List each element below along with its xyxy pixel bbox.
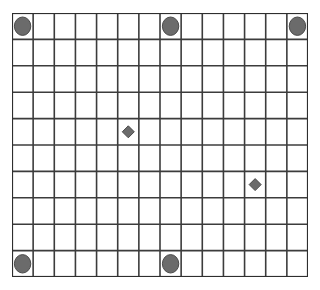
grid-cell bbox=[160, 39, 181, 65]
grid-cell bbox=[245, 198, 266, 224]
grid-cell bbox=[54, 224, 75, 250]
grid-surface bbox=[12, 13, 308, 277]
grid-cell bbox=[139, 198, 160, 224]
grid-cell bbox=[245, 92, 266, 118]
grid-cell bbox=[266, 145, 287, 171]
grid-cell bbox=[12, 39, 33, 65]
grid-cell bbox=[33, 171, 54, 197]
grid-cell bbox=[118, 198, 139, 224]
grid-cell bbox=[118, 66, 139, 92]
grid-cell bbox=[12, 66, 33, 92]
grid-cell bbox=[54, 198, 75, 224]
grid-cell bbox=[181, 119, 202, 145]
grid-cell bbox=[266, 119, 287, 145]
grid-cell bbox=[54, 145, 75, 171]
grid-cell bbox=[12, 92, 33, 118]
grid-cell bbox=[223, 171, 244, 197]
grid-cell bbox=[202, 66, 223, 92]
grid-cell bbox=[54, 39, 75, 65]
grid-cell bbox=[54, 13, 75, 39]
grid-cell bbox=[266, 251, 287, 277]
grid-cell bbox=[118, 13, 139, 39]
grid-cell bbox=[97, 92, 118, 118]
grid-cell bbox=[202, 13, 223, 39]
grid-cell bbox=[33, 198, 54, 224]
grid-cell bbox=[181, 145, 202, 171]
bottom-mid-circle[interactable] bbox=[162, 255, 178, 273]
grid-cell bbox=[181, 13, 202, 39]
grid-cell bbox=[97, 198, 118, 224]
grid-cell bbox=[97, 13, 118, 39]
grid-cell bbox=[287, 145, 308, 171]
grid-cell bbox=[97, 224, 118, 250]
grid-cell bbox=[12, 119, 33, 145]
grid-cell bbox=[160, 66, 181, 92]
grid-cell bbox=[181, 66, 202, 92]
grid-cell bbox=[223, 198, 244, 224]
grid-cell bbox=[33, 13, 54, 39]
top-left-circle[interactable] bbox=[14, 17, 30, 35]
grid-figure bbox=[12, 13, 308, 277]
grid-cell bbox=[223, 92, 244, 118]
grid-cell bbox=[118, 92, 139, 118]
grid-cell bbox=[266, 92, 287, 118]
grid-cell bbox=[97, 119, 118, 145]
grid-cell bbox=[202, 224, 223, 250]
top-right-circle[interactable] bbox=[289, 17, 305, 35]
grid-cell bbox=[139, 92, 160, 118]
grid-cell bbox=[181, 224, 202, 250]
grid-cell bbox=[75, 171, 96, 197]
grid-cell bbox=[75, 251, 96, 277]
grid-cell bbox=[139, 13, 160, 39]
grid-cell bbox=[160, 224, 181, 250]
grid-cell bbox=[287, 251, 308, 277]
grid-cell bbox=[33, 224, 54, 250]
grid-cell bbox=[202, 92, 223, 118]
grid-cell bbox=[202, 198, 223, 224]
grid-cell bbox=[223, 224, 244, 250]
grid-cell bbox=[245, 251, 266, 277]
grid-cell bbox=[223, 145, 244, 171]
grid-cell bbox=[97, 251, 118, 277]
grid-cell bbox=[12, 171, 33, 197]
grid-cell bbox=[97, 66, 118, 92]
grid-cell bbox=[118, 145, 139, 171]
grid-cell bbox=[75, 13, 96, 39]
top-mid-circle[interactable] bbox=[162, 17, 178, 35]
grid-cell bbox=[266, 13, 287, 39]
grid-cell bbox=[118, 224, 139, 250]
grid-cell bbox=[223, 66, 244, 92]
grid-cell bbox=[139, 66, 160, 92]
grid-cell bbox=[202, 119, 223, 145]
grid-cell bbox=[33, 66, 54, 92]
grid-cell bbox=[181, 39, 202, 65]
grid-cell bbox=[139, 171, 160, 197]
grid-cell bbox=[245, 39, 266, 65]
grid-cell bbox=[54, 251, 75, 277]
grid-cell bbox=[287, 119, 308, 145]
grid-cell bbox=[139, 119, 160, 145]
grid-cell bbox=[202, 39, 223, 65]
grid-cell bbox=[75, 224, 96, 250]
grid-cell bbox=[75, 66, 96, 92]
grid-cell bbox=[12, 145, 33, 171]
grid-cell bbox=[12, 198, 33, 224]
grid-cell bbox=[160, 119, 181, 145]
grid-cell bbox=[223, 13, 244, 39]
grid-cell bbox=[245, 119, 266, 145]
grid-cell bbox=[266, 198, 287, 224]
grid-cell bbox=[160, 92, 181, 118]
grid-cell bbox=[266, 224, 287, 250]
grid-cell bbox=[160, 171, 181, 197]
grid-cell bbox=[12, 224, 33, 250]
grid-cell bbox=[54, 66, 75, 92]
figure-canvas bbox=[0, 0, 320, 290]
bottom-left-circle[interactable] bbox=[14, 255, 30, 273]
grid-cell bbox=[75, 119, 96, 145]
grid-cell bbox=[287, 66, 308, 92]
grid-cell bbox=[266, 39, 287, 65]
grid-cell bbox=[75, 92, 96, 118]
grid-cell bbox=[202, 251, 223, 277]
grid-cell bbox=[54, 171, 75, 197]
grid-cell bbox=[33, 119, 54, 145]
